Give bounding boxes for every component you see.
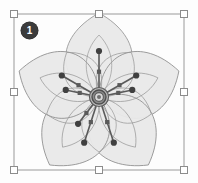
stamen-anther-2[interactable]: [59, 72, 65, 78]
step-number-badge: 1: [21, 22, 38, 39]
stamen-node-7[interactable]: [105, 120, 109, 124]
stamen-node-1[interactable]: [97, 70, 101, 74]
stamen-node-6[interactable]: [89, 120, 93, 124]
stamen-node-2[interactable]: [76, 83, 80, 87]
stamen-node-3[interactable]: [117, 83, 121, 87]
stamen-node-8[interactable]: [84, 111, 88, 115]
stamen-anther-4[interactable]: [63, 87, 69, 93]
handle-bottom-right[interactable]: [181, 167, 188, 174]
stamen-anther-7[interactable]: [111, 140, 117, 146]
handle-top-center[interactable]: [96, 11, 103, 18]
stamen-anther-6[interactable]: [81, 140, 87, 146]
stamen-anther-5[interactable]: [129, 87, 135, 93]
stamen-anther-3[interactable]: [133, 72, 139, 78]
stamen-anther-8[interactable]: [75, 121, 81, 127]
flower-artwork: [9, 13, 189, 183]
screenshot-root: 1: [0, 0, 198, 183]
handle-bottom-center[interactable]: [96, 167, 103, 174]
handle-middle-right[interactable]: [181, 89, 188, 96]
flower-core-center-dot[interactable]: [97, 95, 101, 99]
stamen-node-5[interactable]: [116, 91, 120, 95]
handle-top-left[interactable]: [11, 11, 18, 18]
stamen-anther-1[interactable]: [96, 48, 102, 54]
handle-middle-left[interactable]: [11, 89, 18, 96]
handle-top-right[interactable]: [181, 11, 188, 18]
stamen-node-4[interactable]: [78, 91, 82, 95]
handle-bottom-left[interactable]: [11, 167, 18, 174]
